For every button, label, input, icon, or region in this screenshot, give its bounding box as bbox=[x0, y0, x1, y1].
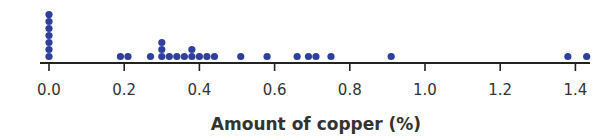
data-point bbox=[237, 53, 244, 60]
data-point bbox=[188, 46, 195, 53]
data-point bbox=[45, 11, 52, 18]
x-tick-label: 0.4 bbox=[187, 81, 211, 99]
data-point bbox=[294, 53, 301, 60]
x-tick-label: 0.2 bbox=[112, 81, 136, 99]
data-point bbox=[45, 53, 52, 60]
data-point bbox=[196, 53, 203, 60]
data-point bbox=[45, 46, 52, 53]
data-point bbox=[312, 53, 319, 60]
x-tick-label: 1.0 bbox=[413, 81, 437, 99]
data-point bbox=[124, 53, 131, 60]
x-tick-label: 0.8 bbox=[338, 81, 362, 99]
x-tick-label: 0.0 bbox=[37, 81, 61, 99]
data-point bbox=[181, 53, 188, 60]
data-point bbox=[203, 53, 210, 60]
data-point bbox=[388, 53, 395, 60]
data-points bbox=[45, 11, 590, 60]
data-point bbox=[188, 53, 195, 60]
data-point bbox=[45, 18, 52, 25]
x-tick-label: 1.4 bbox=[563, 81, 587, 99]
data-point bbox=[45, 32, 52, 39]
x-tick-label: 1.2 bbox=[488, 81, 512, 99]
data-point bbox=[263, 53, 270, 60]
data-point bbox=[166, 53, 173, 60]
data-point bbox=[158, 46, 165, 53]
data-point bbox=[158, 53, 165, 60]
data-point bbox=[211, 53, 218, 60]
data-point bbox=[117, 53, 124, 60]
data-point bbox=[327, 53, 334, 60]
data-point bbox=[583, 53, 590, 60]
data-point bbox=[564, 53, 571, 60]
x-axis-label: Amount of copper (%) bbox=[211, 114, 421, 134]
data-point bbox=[305, 53, 312, 60]
dot-plot: 0.00.20.40.60.81.01.21.4 Amount of coppe… bbox=[0, 0, 616, 138]
data-point bbox=[45, 39, 52, 46]
data-point bbox=[45, 25, 52, 32]
data-point bbox=[158, 39, 165, 46]
data-point bbox=[173, 53, 180, 60]
data-point bbox=[147, 53, 154, 60]
x-axis-ticks: 0.00.20.40.60.81.01.21.4 bbox=[37, 63, 587, 99]
x-tick-label: 0.6 bbox=[263, 81, 287, 99]
